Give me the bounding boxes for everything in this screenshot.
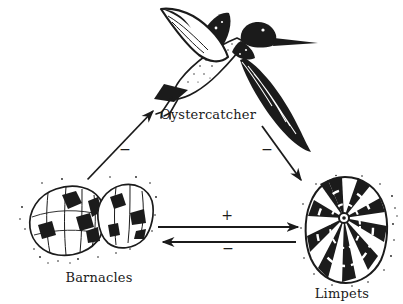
label-limpets: Limpets <box>315 286 369 301</box>
arrows-layer <box>0 0 403 304</box>
sign-oystercatcher-limpets: − <box>261 142 273 156</box>
label-oystercatcher: Oystercatcher <box>160 107 256 122</box>
label-barnacles: Barnacles <box>65 270 132 285</box>
sign-limpets-barnacles-minus: − <box>222 241 234 255</box>
sign-barnacles-limpets-plus: + <box>221 208 233 222</box>
ecology-interaction-diagram: − − + − Oystercatcher Barnacles Limpets <box>0 0 403 304</box>
sign-barnacles-oystercatcher: − <box>119 142 131 156</box>
